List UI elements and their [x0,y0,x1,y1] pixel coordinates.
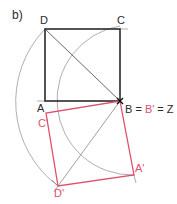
part-label: b) [12,10,23,21]
square-rotated [46,101,134,186]
label-A: A [37,103,44,114]
geometry-diagram [0,0,177,204]
label-D-prime: D' [54,188,64,199]
diagonal-DB [45,29,120,101]
label-C: C [117,15,125,26]
diagonal-BD-prime [58,101,120,186]
label-D: D [40,15,48,26]
label-A-prime: A' [135,163,144,174]
label-C-prime: C' [38,118,48,129]
label-B-equation: B = B' = Z [125,104,174,115]
